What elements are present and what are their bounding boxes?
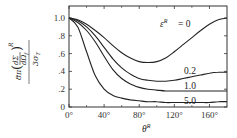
svg-text:dΣ: dΣ — [12, 56, 20, 65]
y-tick-label: .2 — [58, 84, 65, 94]
y-axis-ticks: 0.2.4.6.81.0 — [54, 13, 227, 112]
curve-label-0: = 0 — [178, 19, 191, 29]
curve-label-0-symbol: εR — [160, 18, 168, 29]
chart: 0°40°80°120°160° 0.2.4.6.81.0 εR = 0 0.2… — [0, 0, 237, 138]
svg-text:R: R — [7, 42, 14, 48]
y-tick-label: .6 — [58, 49, 65, 59]
x-tick-label: 40° — [98, 110, 111, 120]
curve-5.0 — [69, 18, 227, 103]
curve-label-5.0: 5.0 — [184, 96, 196, 106]
y-tick-label: 0 — [61, 102, 66, 112]
plot-frame — [69, 6, 227, 107]
y-tick-label: 1.0 — [54, 13, 66, 23]
y-axis-label: 8π ( dΣ dΩf ) R 3σT — [7, 40, 41, 84]
curves — [69, 18, 227, 103]
x-tick-label: 120° — [166, 110, 184, 120]
x-tick-label: 0° — [65, 110, 74, 120]
y-tick-label: .4 — [58, 66, 65, 76]
curve-0.2 — [69, 18, 227, 81]
curve-label-1.0: 1.0 — [184, 81, 196, 91]
y-tick-label: .8 — [58, 31, 65, 41]
x-tick-label: 160° — [201, 110, 219, 120]
x-tick-label: 80° — [133, 110, 146, 120]
curve-label-0.2: 0.2 — [184, 66, 196, 76]
svg-text:3σT: 3σT — [31, 51, 41, 66]
svg-text:dΩf: dΩf — [20, 52, 30, 65]
x-axis-label: θR — [142, 123, 151, 134]
curve-0 — [69, 18, 227, 63]
